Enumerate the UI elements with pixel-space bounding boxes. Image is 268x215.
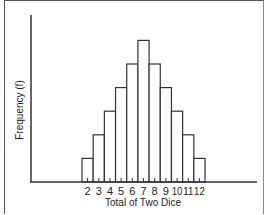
bars-group [82, 40, 205, 182]
x-tick-label: 11 [183, 185, 194, 197]
histogram-chart: 23456789101112 Total of Two Dice Frequen… [0, 0, 268, 215]
x-axis-label: Total of Two Dice [105, 197, 181, 208]
bar-7 [138, 40, 149, 182]
x-tick-label: 7 [140, 185, 146, 197]
x-tick-label: 2 [85, 185, 91, 197]
bar-11 [183, 135, 194, 182]
x-tick-label: 5 [118, 185, 124, 197]
x-tick-label: 9 [163, 185, 169, 197]
bar-6 [127, 64, 138, 182]
x-tick-label: 10 [172, 185, 183, 197]
x-tick-label: 4 [107, 185, 113, 197]
bar-9 [160, 88, 171, 182]
x-tick-label: 8 [152, 185, 158, 197]
y-axis-label: Frequency (f) [14, 80, 25, 139]
bar-4 [104, 111, 115, 182]
x-tick-label: 12 [194, 185, 205, 197]
bar-10 [171, 111, 182, 182]
bar-3 [93, 135, 104, 182]
bar-5 [116, 88, 127, 182]
bar-8 [149, 64, 160, 182]
x-tick-label: 6 [129, 185, 135, 197]
x-tick-label: 3 [96, 185, 102, 197]
